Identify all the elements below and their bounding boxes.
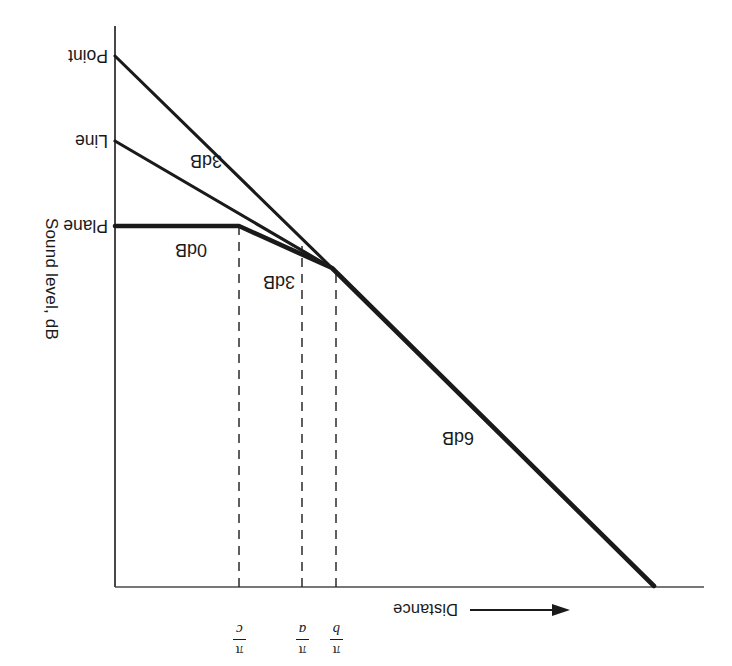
y-axis-title: Sound level, dB bbox=[41, 218, 61, 340]
tick-denominator: a bbox=[297, 622, 309, 639]
figure-caption-clipped: Fig. 11.5 Sound level variation with dis… bbox=[0, 0, 732, 13]
plot-canvas: Distance Sound level, dB π b π a π c Pla… bbox=[0, 14, 732, 666]
tick-label-pi-over-b: π b bbox=[330, 622, 343, 659]
slope-label-3db-point: 3dB bbox=[190, 150, 222, 171]
tick-label-pi-over-c: π c bbox=[233, 622, 246, 659]
fraction-bar bbox=[296, 639, 309, 640]
fraction-bar bbox=[330, 639, 343, 640]
source-label-plane: Plane bbox=[63, 215, 108, 236]
tick-numerator: π bbox=[234, 641, 246, 658]
slope-label-3db-line: 3dB bbox=[263, 271, 295, 292]
source-label-point: Point bbox=[68, 45, 108, 66]
fraction-bar bbox=[233, 639, 246, 640]
slope-label-6db: 6dB bbox=[442, 427, 474, 448]
tick-label-pi-over-a: π a bbox=[296, 622, 309, 659]
tick-denominator: c bbox=[234, 622, 245, 639]
tick-numerator: π bbox=[297, 641, 309, 658]
curve-line-source bbox=[115, 141, 654, 586]
source-label-line: Line bbox=[75, 130, 108, 151]
figure-root: Fig. 11.5 Sound level variation with dis… bbox=[0, 0, 732, 666]
curve-plane-source bbox=[115, 226, 654, 586]
distance-arrow-icon bbox=[470, 604, 570, 616]
tick-numerator: π bbox=[331, 641, 343, 658]
slope-label-0db-plane: 0dB bbox=[175, 239, 207, 260]
x-axis-title: Distance bbox=[393, 600, 458, 619]
plot-graphics bbox=[0, 14, 732, 666]
tick-denominator: b bbox=[331, 622, 343, 639]
figure-caption-text: Fig. 11.5 Sound level variation with dis… bbox=[92, 0, 652, 3]
